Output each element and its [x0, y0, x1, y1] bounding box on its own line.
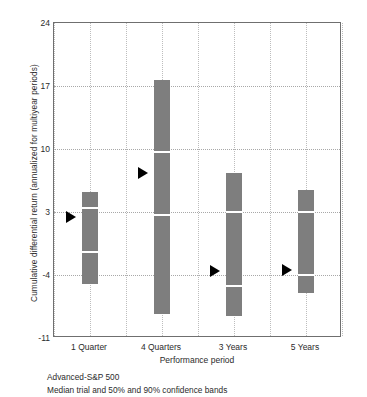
- y-gridline: [54, 86, 340, 87]
- y-tick-label: -11: [38, 333, 50, 343]
- plot-area: 2417103-4-11: [53, 22, 341, 337]
- y-tick-label: -4: [42, 270, 50, 280]
- x-gridline: [342, 23, 343, 336]
- band-separator: [82, 251, 98, 253]
- caption-line-1: Advanced-S&P 500: [47, 371, 227, 384]
- confidence-band-bar: [82, 192, 98, 284]
- band-separator: [298, 211, 314, 213]
- band-separator: [82, 207, 98, 209]
- y-axis-title: Cumulative differential return (annualiz…: [29, 33, 39, 333]
- y-tick-label: 10: [41, 144, 50, 154]
- x-tick-label: 4 Quarters: [141, 342, 181, 352]
- x-gridline: [54, 23, 55, 336]
- y-tick-label: 24: [41, 18, 50, 28]
- band-separator: [298, 274, 314, 276]
- x-gridline: [270, 23, 271, 336]
- band-separator: [226, 285, 242, 287]
- confidence-band-bar: [154, 80, 170, 314]
- caption-line-2: Median trial and 50% and 90% confidence …: [47, 384, 227, 397]
- median-marker-icon: [138, 167, 148, 179]
- band-separator: [226, 211, 242, 213]
- x-tick-label: 3 Years: [219, 342, 247, 352]
- median-marker-icon: [282, 264, 292, 276]
- y-tick-label: 3: [45, 207, 50, 217]
- confidence-band-bar: [226, 173, 242, 316]
- x-tick-label: 5 Years: [291, 342, 319, 352]
- chart-figure: Cumulative differential return (annualiz…: [0, 0, 367, 397]
- y-gridline: [54, 149, 340, 150]
- band-separator: [154, 151, 170, 153]
- x-axis-title: Performance period: [53, 355, 341, 365]
- band-separator: [154, 214, 170, 216]
- x-tick-label: 1 Quarter: [71, 342, 107, 352]
- x-gridline: [126, 23, 127, 336]
- chart-caption: Advanced-S&P 500 Median trial and 50% an…: [47, 371, 227, 397]
- confidence-band-bar: [298, 190, 314, 293]
- median-marker-icon: [66, 211, 76, 223]
- median-marker-icon: [210, 265, 220, 277]
- x-gridline: [90, 23, 91, 336]
- x-gridline: [198, 23, 199, 336]
- y-tick-label: 17: [41, 81, 50, 91]
